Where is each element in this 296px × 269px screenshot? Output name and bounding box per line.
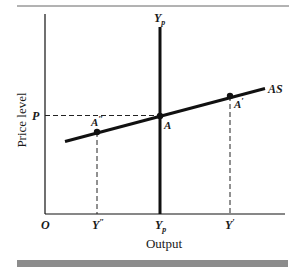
- x-tick-y-double-prime: Y″: [92, 217, 104, 232]
- point-a-double-prime-label: A″: [90, 114, 103, 128]
- price-label: P: [32, 109, 40, 123]
- point-a-double-prime: [94, 129, 100, 135]
- point-a: [157, 113, 163, 119]
- origin-label: O: [41, 218, 50, 232]
- y-axis-label: Price level: [14, 92, 29, 148]
- x-tick-y-prime: Y′: [225, 217, 235, 232]
- point-a-prime-label: A′: [233, 96, 244, 110]
- yp-top-label: Yp: [154, 11, 165, 27]
- aggregate-supply-diagram: Price level P Yp AS A″ A A′ O Y″ Yp Y′ O…: [0, 0, 296, 269]
- x-axis-label: Output: [146, 236, 183, 251]
- bottom-bar: [17, 260, 288, 267]
- as-label: AS: [267, 82, 283, 96]
- x-tick-yp: Yp: [155, 218, 166, 234]
- point-a-prime: [227, 93, 233, 99]
- point-a-label: A: [163, 119, 171, 131]
